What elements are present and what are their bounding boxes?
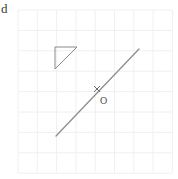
grid-lines: [18, 10, 172, 173]
figure-canvas: d O: [0, 0, 178, 179]
diagonal-line: [56, 49, 139, 136]
point-o-label: O: [100, 96, 107, 106]
geometry-figure-svg: [0, 0, 178, 179]
